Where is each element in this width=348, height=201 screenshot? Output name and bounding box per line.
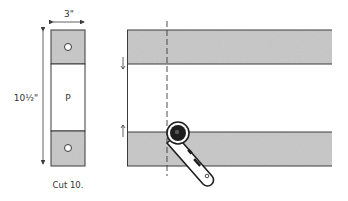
width-label: 3" — [64, 9, 74, 19]
bottom-circle-marker — [65, 145, 72, 152]
center-label: P — [65, 93, 71, 103]
strip-unit-figure: 3" 10½" P Cut 10. — [14, 9, 85, 190]
cut-caption: Cut 10. — [53, 180, 84, 190]
diagram-canvas: 3" 10½" P Cut 10. — [0, 0, 348, 201]
fold-arrow-up-icon — [121, 125, 125, 137]
cutting-figure — [121, 21, 332, 186]
bottom-fabric-band — [128, 132, 332, 166]
fold-arrow-down-icon — [121, 57, 125, 69]
top-fabric-band — [128, 30, 332, 64]
top-circle-marker — [65, 44, 72, 51]
height-label: 10½" — [14, 93, 38, 103]
